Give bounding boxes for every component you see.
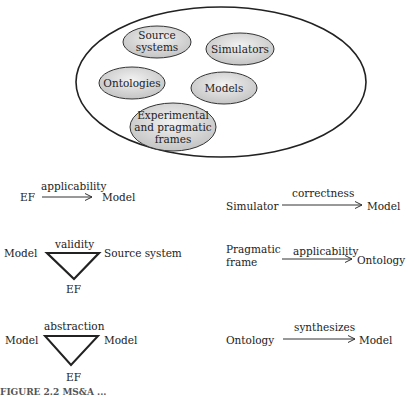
oval-label-line: Experimental [130, 109, 216, 121]
validity-bottom-label: EF [66, 283, 81, 295]
synthesizes-target-label: Model [359, 334, 392, 346]
correctness-label: correctness [292, 187, 354, 199]
ontology-target-label: Ontology [357, 254, 405, 266]
ontology-source-label: Ontology [226, 334, 274, 346]
oval-label-line: frames [130, 133, 216, 145]
oval-label-simulators: Simulators [206, 43, 274, 55]
abstraction-right-label: Model [104, 334, 137, 346]
oval-label-source-systems: Source systems [123, 29, 191, 53]
validity-left-label: Model [4, 247, 37, 259]
correctness-target-label: Model [367, 200, 400, 212]
pragmatic-frame-label-line2: frame [226, 256, 257, 268]
figure-caption: FIGURE 2.2 MS&A ... [0, 387, 107, 395]
applicability-label: applicability [41, 180, 107, 192]
oval-label-frames: Experimental and pragmatic frames [130, 109, 216, 145]
simulator-label: Simulator [226, 200, 278, 212]
oval-label-models: Models [191, 82, 257, 94]
oval-label-line: and pragmatic [130, 121, 216, 133]
oval-label-line: systems [123, 41, 191, 53]
triangle-abstraction [45, 336, 98, 365]
validity-right-label: Source system [104, 247, 182, 259]
abstraction-left-label: Model [5, 334, 38, 346]
oval-label-ontologies: Ontologies [99, 77, 165, 89]
model-label: Model [102, 191, 135, 203]
pf-applicability-label: applicability [293, 245, 359, 257]
triangle-validity [47, 253, 99, 279]
abstraction-label: abstraction [44, 320, 104, 332]
synthesizes-label: synthesizes [294, 321, 355, 333]
ef-label: EF [20, 191, 35, 203]
validity-label: validity [55, 238, 94, 250]
pragmatic-frame-label-line1: Pragmatic [226, 243, 281, 255]
abstraction-bottom-label: EF [66, 371, 81, 383]
oval-label-line: Source [123, 29, 191, 41]
